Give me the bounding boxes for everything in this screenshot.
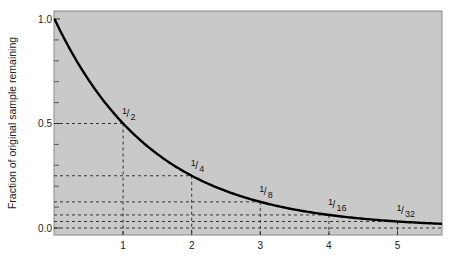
svg-text:2: 2 [131, 112, 136, 122]
svg-text:16: 16 [336, 203, 346, 213]
decay-chart: 0.00.51.0 12345 1/21/41/81/161/32 Fracti… [0, 0, 460, 268]
svg-text:4: 4 [199, 164, 204, 174]
y-tick-label: 0.5 [38, 118, 52, 129]
y-tick-label: 1.0 [38, 14, 52, 25]
svg-text:8: 8 [268, 190, 273, 200]
y-axis-label: Fraction of original sample remaining [6, 37, 18, 209]
x-tick-label: 4 [326, 240, 332, 251]
svg-text:/: / [127, 108, 130, 119]
x-tick-label: 5 [395, 240, 401, 251]
svg-text:/: / [401, 205, 404, 216]
svg-text:32: 32 [405, 209, 415, 219]
y-tick-label: 0.0 [38, 223, 52, 234]
svg-text:/: / [264, 186, 267, 197]
x-tick-label: 2 [189, 240, 195, 251]
svg-text:/: / [332, 199, 335, 210]
svg-text:/: / [195, 160, 198, 171]
x-tick-label: 3 [258, 240, 264, 251]
x-tick-label: 1 [120, 240, 126, 251]
